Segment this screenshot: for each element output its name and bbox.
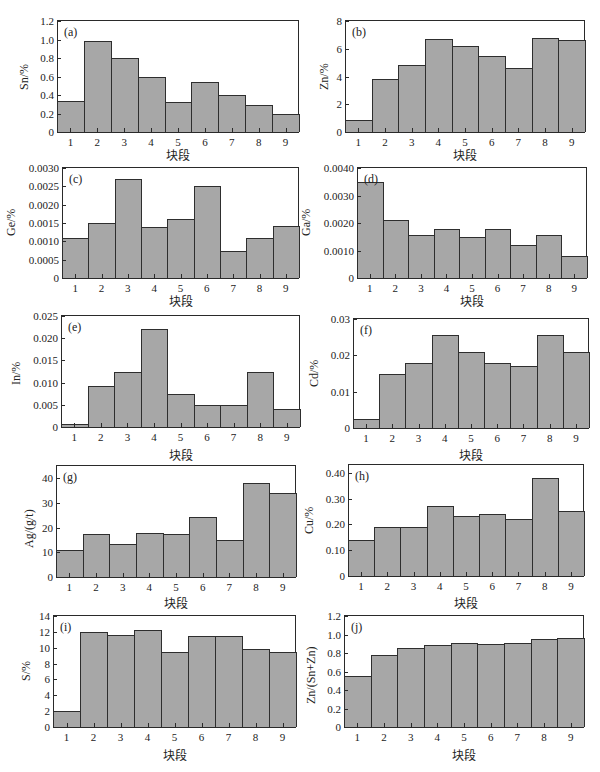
- bar-5: [451, 643, 479, 727]
- x-tick-label: 9: [276, 282, 296, 294]
- x-tick-mark: [492, 572, 493, 576]
- x-tick-mark: [414, 572, 415, 576]
- bar-8: [536, 235, 563, 278]
- y-tick-mark: [345, 21, 349, 22]
- x-tick-mark: [154, 274, 155, 278]
- y-tick-label: 0: [297, 721, 341, 733]
- y-tick-mark: [57, 58, 61, 59]
- bar-9: [269, 493, 297, 577]
- x-tick-mark: [256, 573, 257, 577]
- x-tick-mark: [544, 723, 545, 727]
- x-tick-label: 4: [144, 431, 164, 443]
- y-tick-label: 0.005: [14, 399, 58, 411]
- y-tick-mark: [62, 186, 66, 187]
- x-tick-mark: [127, 423, 128, 427]
- x-tick-mark: [207, 274, 208, 278]
- bar-5: [167, 394, 195, 427]
- x-tick-label: 9: [566, 432, 586, 444]
- bar-5: [161, 652, 189, 727]
- bar-6: [477, 644, 505, 727]
- bar-2: [383, 220, 410, 278]
- x-tick-mark: [154, 423, 155, 427]
- x-tick-label: 1: [60, 136, 80, 148]
- y-axis-label: Sn/%: [17, 63, 32, 89]
- x-tick-mark: [283, 723, 284, 727]
- x-tick-label: 4: [138, 731, 158, 743]
- bar-4: [136, 533, 164, 577]
- x-tick-mark: [260, 423, 261, 427]
- bar-3: [115, 179, 142, 278]
- x-tick-mark: [392, 424, 393, 428]
- x-tick-label: 2: [377, 580, 397, 592]
- bar-2: [372, 79, 400, 132]
- y-tick-mark: [56, 577, 60, 578]
- x-tick-label: 1: [356, 432, 376, 444]
- y-tick-mark: [357, 196, 361, 197]
- x-tick-label: 5: [165, 731, 185, 743]
- bar-4: [427, 506, 454, 576]
- bar-3: [398, 65, 426, 132]
- y-tick-mark: [61, 405, 65, 406]
- y-tick-label: 14: [6, 610, 50, 622]
- x-tick-mark: [357, 723, 358, 727]
- y-tick-mark: [348, 473, 352, 474]
- y-tick-label: 2: [298, 98, 342, 110]
- bar-6: [194, 186, 221, 278]
- x-tick-label: 3: [404, 580, 424, 592]
- bar-3: [397, 648, 425, 727]
- x-tick-label: 9: [277, 431, 297, 443]
- x-tick-label: 6: [487, 432, 507, 444]
- x-tick-label: 8: [534, 731, 554, 743]
- x-tick-label: 1: [347, 731, 367, 743]
- plot-frame: (f): [353, 318, 589, 429]
- y-tick-label: 0.4: [10, 89, 54, 101]
- x-tick-mark: [438, 128, 439, 132]
- y-tick-label: 0.0030: [310, 190, 354, 202]
- bar-2: [374, 527, 401, 576]
- y-tick-label: 6: [298, 43, 342, 55]
- y-tick-label: 0.0010: [15, 235, 59, 247]
- x-tick-mark: [384, 723, 385, 727]
- x-tick-mark: [471, 424, 472, 428]
- y-tick-label: 0.40: [301, 467, 345, 479]
- x-tick-mark: [517, 723, 518, 727]
- x-tick-label: 6: [192, 731, 212, 743]
- x-tick-mark: [497, 424, 498, 428]
- x-tick-label: 3: [118, 282, 138, 294]
- y-tick-label: 0.020: [14, 332, 58, 344]
- y-tick-mark: [53, 679, 57, 680]
- x-axis-label: 块段: [436, 594, 496, 611]
- bar-5: [459, 237, 486, 278]
- y-tick-mark: [348, 550, 352, 551]
- plot-frame: (g): [56, 465, 296, 578]
- y-axis-label: Zn/%: [317, 63, 332, 90]
- bar-4: [424, 645, 452, 727]
- x-tick-mark: [550, 424, 551, 428]
- x-tick-label: 1: [59, 581, 79, 593]
- x-tick-mark: [571, 572, 572, 576]
- bar-8: [243, 483, 271, 577]
- x-tick-label: 7: [219, 581, 239, 593]
- bar-6: [478, 56, 506, 132]
- y-tick-mark: [344, 635, 348, 636]
- y-tick-mark: [53, 695, 57, 696]
- y-tick-mark: [57, 95, 61, 96]
- bar-7: [215, 636, 243, 727]
- x-tick-label: 5: [456, 580, 476, 592]
- plot-frame: (j): [344, 615, 584, 728]
- y-tick-mark: [353, 319, 357, 320]
- y-tick-label: 0.2: [10, 108, 54, 120]
- x-tick-label: 1: [360, 282, 380, 294]
- x-tick-mark: [229, 723, 230, 727]
- x-tick-mark: [286, 274, 287, 278]
- x-tick-mark: [181, 274, 182, 278]
- bar-4: [141, 227, 168, 278]
- y-tick-label: 0.0020: [310, 217, 354, 229]
- y-axis-label: Ag/(g/t): [22, 509, 37, 548]
- y-tick-mark: [57, 40, 61, 41]
- y-tick-mark: [61, 338, 65, 339]
- y-axis-label: Cd/%: [307, 359, 322, 386]
- x-axis-label: 块段: [151, 446, 211, 463]
- x-tick-label: 9: [273, 731, 293, 743]
- x-tick-mark: [256, 723, 257, 727]
